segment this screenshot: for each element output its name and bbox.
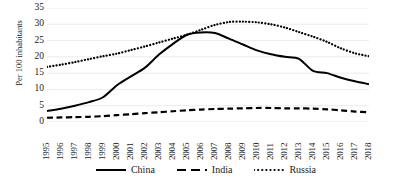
series-line-russia (47, 22, 369, 67)
y-tick-label: 10 (22, 84, 44, 94)
x-tick-label: 1996 (56, 143, 65, 160)
x-axis-tick-labels: 1995199619971998199920002001200220032004… (47, 124, 369, 160)
x-tick-label: 1999 (98, 143, 107, 160)
series-lines (47, 22, 369, 118)
x-tick-label: 2010 (252, 143, 261, 160)
legend-label: India (212, 165, 233, 175)
x-tick-label: 2003 (154, 143, 163, 160)
x-tick-label: 2005 (182, 143, 191, 160)
x-tick-label: 2011 (266, 143, 275, 160)
line-chart: Per 100 inhabitants 35302520151050 19951… (0, 0, 412, 184)
x-tick-label: 2017 (350, 143, 359, 160)
x-tick-label: 2004 (168, 143, 177, 160)
chart-legend: ChinaIndiaRussia (0, 165, 412, 175)
x-tick-label: 1998 (84, 143, 93, 160)
plot-svg (47, 8, 369, 122)
x-tick-label: 2001 (126, 143, 135, 160)
legend-item-russia[interactable]: Russia (254, 165, 316, 175)
legend-item-india[interactable]: India (177, 165, 233, 175)
y-tick-label: 5 (22, 101, 44, 111)
y-tick-label: 25 (22, 36, 44, 46)
y-tick-label: 35 (22, 3, 44, 13)
x-tick-label: 2006 (196, 143, 205, 160)
y-tick-label: 0 (22, 117, 44, 127)
gridlines (47, 8, 369, 122)
x-tick-label: 2002 (140, 143, 149, 160)
series-line-india (47, 108, 369, 118)
x-tick-label: 2016 (336, 143, 345, 160)
x-tick-label: 2012 (280, 143, 289, 160)
x-tick-label: 2009 (238, 143, 247, 160)
x-tick-label: 2008 (224, 143, 233, 160)
legend-swatch-dashed (177, 166, 207, 174)
x-tick-label: 2013 (294, 143, 303, 160)
y-tick-label: 30 (22, 19, 44, 29)
x-tick-label: 1997 (70, 143, 79, 160)
x-tick-label: 1995 (42, 143, 51, 160)
x-tick-label: 2018 (364, 143, 373, 160)
legend-swatch-solid (96, 166, 126, 174)
series-line-china (47, 32, 369, 111)
plot-area (47, 8, 369, 122)
legend-label: China (131, 165, 155, 175)
y-tick-label: 15 (22, 68, 44, 78)
x-tick-label: 2000 (112, 143, 121, 160)
y-tick-label: 20 (22, 52, 44, 62)
x-tick-label: 2015 (322, 143, 331, 160)
x-tick-label: 2014 (308, 143, 317, 160)
x-tick-label: 2007 (210, 143, 219, 160)
legend-swatch-dotted (254, 166, 284, 174)
legend-item-china[interactable]: China (96, 165, 155, 175)
legend-label: Russia (289, 165, 316, 175)
